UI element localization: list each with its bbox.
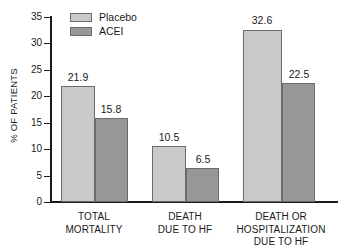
bar-acei-death-due-to-hf — [186, 168, 219, 202]
y-tick-25 — [44, 70, 50, 71]
chart-legend: Placebo ACEI — [70, 11, 137, 39]
bar-acei-total-mortality — [95, 118, 128, 202]
bar-value-placebo-death-or-hospitalization: 32.6 — [239, 15, 285, 26]
y-tick-label-20: 20 — [31, 91, 42, 101]
legend-item-placebo: Placebo — [70, 11, 137, 23]
y-tick-15 — [44, 123, 50, 124]
bar-acei-death-or-hospitalization — [282, 83, 315, 202]
legend-swatch-placebo-icon — [70, 13, 92, 22]
y-tick-20 — [44, 96, 50, 97]
y-tick-5 — [44, 176, 50, 177]
y-tick-label-0: 0 — [36, 197, 42, 207]
y-tick-0 — [44, 202, 50, 203]
category-label-death-or-hospitalization: DEATH OR HOSPITALIZATION DUE TO HF — [219, 211, 343, 249]
y-tick-label-10: 10 — [31, 144, 42, 154]
y-tick-35 — [44, 17, 50, 18]
y-tick-label-15: 15 — [31, 118, 42, 128]
y-tick-label-35: 35 — [31, 12, 42, 22]
y-tick-10 — [44, 149, 50, 150]
y-tick-label-5: 5 — [36, 171, 42, 181]
bar-value-acei-death-due-to-hf: 6.5 — [180, 154, 226, 165]
bar-value-acei-total-mortality: 15.8 — [88, 104, 134, 115]
category-line: DUE TO HF — [219, 236, 343, 249]
legend-swatch-acei-icon — [70, 27, 92, 36]
category-line: DEATH OR — [219, 211, 343, 224]
legend-label-placebo: Placebo — [99, 12, 137, 23]
y-tick-label-30: 30 — [31, 38, 42, 48]
bar-value-placebo-death-due-to-hf: 10.5 — [146, 132, 192, 143]
legend-label-acei: ACEI — [99, 26, 124, 37]
bar-chart: % OF PATIENTS 35 30 25 20 15 10 5 0 Plac… — [0, 0, 346, 250]
bar-value-placebo-total-mortality: 21.9 — [55, 72, 101, 83]
legend-item-acei: ACEI — [70, 25, 137, 37]
y-axis-line — [50, 16, 52, 203]
bar-value-acei-death-or-hospitalization: 22.5 — [276, 69, 322, 80]
bar-placebo-death-or-hospitalization — [243, 30, 282, 202]
y-tick-30 — [44, 43, 50, 44]
y-tick-label-25: 25 — [31, 65, 42, 75]
category-line: HOSPITALIZATION — [219, 224, 343, 237]
